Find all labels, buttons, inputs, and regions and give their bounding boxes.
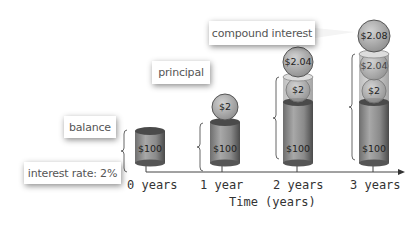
base-amount-2: $100: [283, 143, 313, 154]
coin-year3-204: $2.04: [356, 60, 392, 71]
base-amount-3: $100: [359, 143, 389, 154]
base-amount-0: $100: [135, 143, 165, 154]
interest-rate-callout: interest rate: 2%: [24, 162, 121, 184]
balance-callout: balance: [64, 116, 116, 138]
tick-label-2-years: 2 years: [273, 178, 324, 192]
time-axis: [146, 165, 405, 175]
coin-year2-2: $2: [283, 84, 313, 95]
coin-year3-208: $2.08: [356, 30, 392, 41]
principal-callout: principal: [152, 61, 210, 84]
base-amount-1: $100: [210, 143, 240, 154]
tick-label-3-years: 3 years: [350, 178, 401, 192]
coin-year3-2: $2: [359, 85, 389, 96]
compound-interest-callout: compound interest: [209, 21, 315, 45]
axis-title: Time (years): [229, 195, 316, 209]
coin-year1-2: $2: [210, 101, 240, 112]
compound-interest-pointer: [315, 28, 355, 38]
tick-label-1-year: 1 year: [200, 178, 243, 192]
principal-pointer: [162, 84, 178, 92]
tick-label-0-years: 0 years: [127, 178, 178, 192]
coin-year2-204: $2.04: [280, 56, 316, 67]
